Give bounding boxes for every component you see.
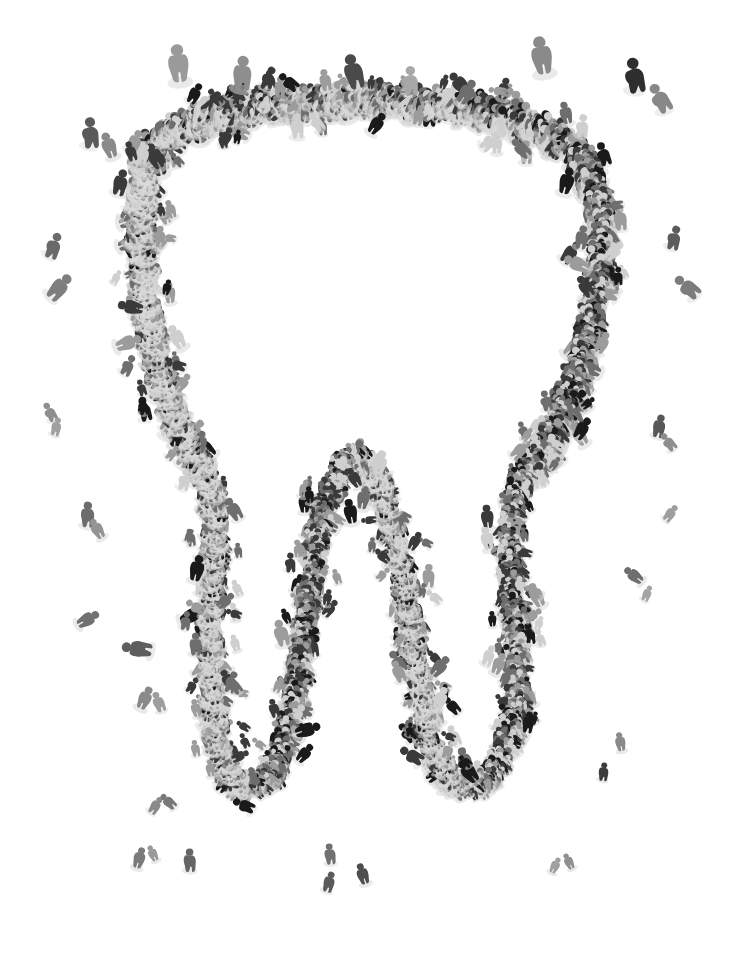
artwork-stage: Aerial view of a crowd of people arrange… xyxy=(0,0,735,955)
crowd-tooth-illustration xyxy=(0,0,735,955)
